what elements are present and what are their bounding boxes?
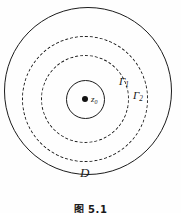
gamma1-label-subscript: 1 bbox=[125, 81, 129, 89]
center-point-dot bbox=[82, 96, 88, 102]
gamma2-label: Γ2 bbox=[133, 90, 143, 101]
center-point-label-text: z bbox=[91, 94, 95, 104]
figure-caption: 图 5.1 bbox=[0, 201, 181, 213]
center-point-label: z0 bbox=[91, 95, 97, 104]
domain-label: D bbox=[80, 166, 89, 179]
figure-container: z0 Γ1 Γ2 D 图 5.1 bbox=[0, 0, 181, 213]
gamma2-label-subscript: 2 bbox=[139, 95, 143, 103]
center-point-label-subscript: 0 bbox=[95, 99, 98, 105]
gamma1-label: Γ1 bbox=[119, 76, 129, 87]
